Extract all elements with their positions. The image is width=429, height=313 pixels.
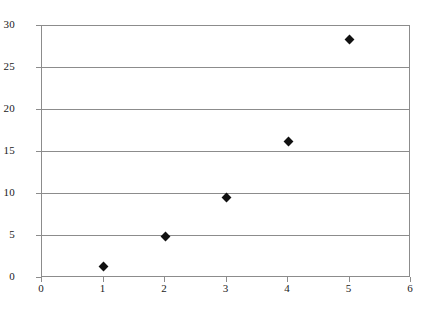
y-axis-tick-label: 10	[0, 187, 15, 198]
x-axis-tick-label: 0	[26, 283, 56, 294]
gridline	[42, 109, 409, 110]
data-point-marker	[160, 232, 170, 242]
gridline	[42, 235, 409, 236]
gridline	[42, 67, 409, 68]
y-axis-tick-label: 5	[0, 229, 15, 240]
plot-area	[41, 25, 410, 277]
y-axis-tick-label: 20	[0, 103, 15, 114]
x-axis-tick-label: 5	[334, 283, 364, 294]
y-axis-tick-label: 30	[0, 19, 15, 30]
scatter-chart: 051015202530 0123456	[0, 0, 429, 313]
gridline	[42, 151, 409, 152]
x-axis-tick-label: 3	[211, 283, 241, 294]
data-point-marker	[99, 261, 109, 271]
y-axis-tick-label: 0	[0, 271, 15, 282]
gridline	[42, 25, 409, 26]
x-axis-tick-label: 6	[395, 283, 425, 294]
data-point-marker	[283, 137, 293, 147]
x-axis-tick-label: 1	[88, 283, 118, 294]
x-axis-tick-label: 4	[272, 283, 302, 294]
data-point-marker	[345, 34, 355, 44]
x-axis-tick-label: 2	[149, 283, 179, 294]
y-axis-tick-label: 15	[0, 145, 15, 156]
y-axis-tick-label: 25	[0, 61, 15, 72]
